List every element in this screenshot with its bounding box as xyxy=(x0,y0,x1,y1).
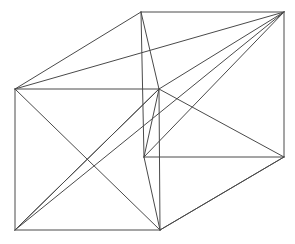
figure-root xyxy=(0,0,295,244)
wireframe-box-drawing xyxy=(0,0,295,244)
